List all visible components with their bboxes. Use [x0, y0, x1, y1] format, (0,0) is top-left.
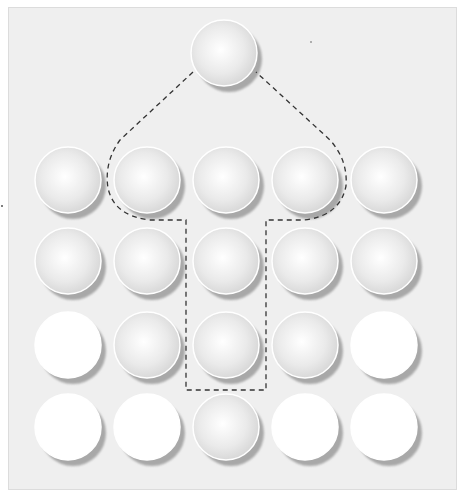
ball-r1-c4: [272, 147, 343, 219]
ball-r1-c3: [193, 147, 264, 219]
balls-layer: [35, 20, 422, 466]
ball-plain: [114, 394, 180, 460]
ball-plain: [351, 312, 417, 378]
ball-shaded: [272, 228, 338, 294]
ball-shaded: [193, 394, 259, 460]
ball-plain: [35, 312, 101, 378]
ball-shaded: [272, 147, 338, 213]
apex-ball: [191, 20, 262, 92]
ball-plain: [272, 394, 338, 460]
ball-diagram: [0, 0, 467, 501]
ball-r3-c5: [351, 312, 422, 384]
ball-shaded: [193, 312, 259, 378]
ball-r4-c4: [272, 394, 343, 466]
ball-r4-c1: [35, 394, 106, 466]
ball-shaded: [272, 312, 338, 378]
ball-plain: [35, 394, 101, 460]
ball-r3-c1: [35, 312, 106, 384]
ball-r2-c4: [272, 228, 343, 300]
ball-r1-c1: [35, 147, 106, 219]
ball-r2-c1: [35, 228, 106, 300]
ball-r4-c3: [193, 394, 264, 466]
ball-shaded: [35, 147, 101, 213]
ball-r3-c2: [114, 312, 185, 384]
ball-shaded: [114, 228, 180, 294]
ball-r2-c2: [114, 228, 185, 300]
ball-r1-c5: [351, 147, 422, 219]
ball-plain: [351, 394, 417, 460]
ball-shaded: [193, 228, 259, 294]
ball-shaded: [35, 228, 101, 294]
ball-r2-c5: [351, 228, 422, 300]
ball-shaded: [351, 228, 417, 294]
ball-shaded: [193, 147, 259, 213]
ball-shaded: [351, 147, 417, 213]
ball-shaded: [114, 147, 180, 213]
ball-r2-c3: [193, 228, 264, 300]
ball-r3-c3: [193, 312, 264, 384]
ball-r1-c2: [114, 147, 185, 219]
ball-r4-c2: [114, 394, 185, 466]
ball-shaded: [191, 20, 257, 86]
ball-shaded: [114, 312, 180, 378]
ball-r4-c5: [351, 394, 422, 466]
ball-r3-c4: [272, 312, 343, 384]
